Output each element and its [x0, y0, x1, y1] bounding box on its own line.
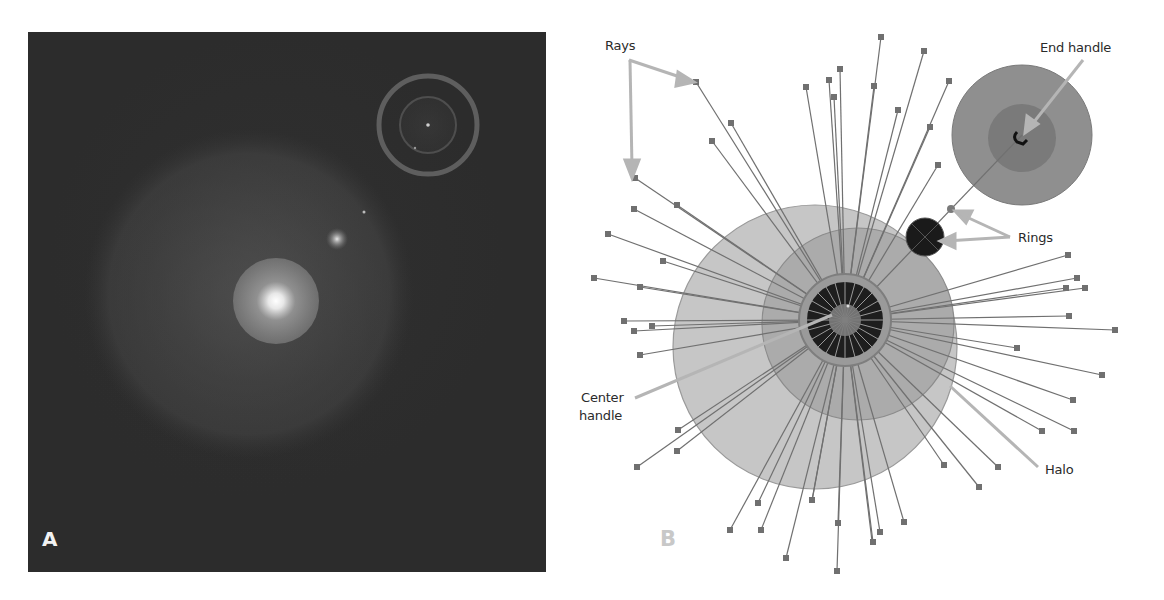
flare-handles-diagram	[560, 0, 1164, 600]
label-end-handle: End handle	[1040, 40, 1111, 56]
panel-a-rendered-flare	[28, 32, 546, 572]
panel-label-a: A	[42, 527, 57, 551]
label-halo: Halo	[1045, 462, 1074, 478]
flare-ring-speck	[414, 147, 416, 149]
label-center-handle-line1: Center	[581, 390, 624, 406]
flare-core	[233, 258, 319, 344]
flare-ring-center	[426, 123, 430, 127]
label-rings: Rings	[1018, 230, 1053, 246]
label-center-handle-line2: handle	[579, 408, 622, 424]
flare-speck	[363, 211, 366, 214]
flare-secondary-glow	[326, 228, 348, 250]
label-rays: Rays	[605, 38, 635, 54]
flare-render	[28, 32, 546, 572]
end-inner-circle	[988, 104, 1056, 172]
center-handle[interactable]	[829, 304, 861, 336]
panel-label-b: B	[660, 527, 676, 551]
center-speck	[847, 305, 850, 308]
panel-b-handles-diagram	[560, 0, 1164, 600]
